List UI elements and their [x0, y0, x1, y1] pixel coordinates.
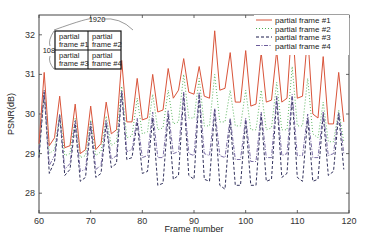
inset-cell-sublabel-4: frame #4	[92, 59, 122, 68]
inset-cell-sublabel-3: frame #3	[59, 59, 89, 68]
y-tick-label: 30	[25, 109, 35, 119]
x-tick-label: 120	[341, 216, 356, 226]
x-tick-label: 100	[238, 216, 253, 226]
x-tick-label: 110	[290, 216, 304, 226]
legend-label-4: partial frame #4	[275, 42, 331, 51]
y-tick-label: 31	[25, 69, 35, 79]
legend: partial frame #1partial frame #2partial …	[254, 15, 349, 55]
inset-cell-sublabel-1: frame #1	[59, 40, 89, 49]
inset-cell-sublabel-2: frame #2	[92, 40, 122, 49]
y-tick-label: 32	[25, 30, 35, 40]
x-tick-label: 70	[86, 216, 96, 226]
y-tick-label: 28	[25, 188, 35, 198]
inset-width-label: 1920	[89, 15, 106, 24]
y-axis-label: PSNR(dB)	[6, 93, 16, 135]
y-tick-label: 29	[25, 149, 35, 159]
x-axis-label: Frame number	[164, 224, 223, 234]
x-tick-label: 60	[34, 216, 44, 226]
x-tick-label: 80	[137, 216, 147, 226]
psnr-line-chart: 60708090100110120 2829303132 Frame numbe…	[0, 0, 378, 243]
